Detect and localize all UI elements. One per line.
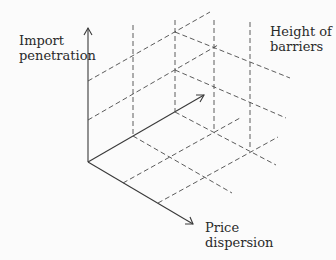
horizontal-axis: [88, 162, 193, 224]
axes: [84, 28, 204, 224]
vertical-axis-label-line2: penetration: [19, 48, 96, 63]
dashed-floor-grid: [123, 112, 278, 203]
floor-price-line-1: [133, 136, 232, 193]
horizontal-axis-label-line2: dispersion: [205, 235, 273, 250]
floor-depth-line-2: [158, 137, 278, 203]
three-axis-diagram: Import penetration Height of barriers Pr…: [0, 0, 336, 260]
depth-axis-label-line1: Height of: [270, 24, 332, 39]
depth-axis: [88, 95, 204, 162]
floor-depth-line-1: [123, 118, 240, 183]
depth-axis-label: Height of barriers: [270, 24, 332, 54]
vertical-axis-label: Import penetration: [19, 33, 96, 63]
depth-axis-label-line2: barriers: [270, 39, 332, 54]
upper-price-line-2: [175, 70, 286, 118]
wall-line-upper: [88, 12, 210, 81]
vertical-axis-label-line1: Import: [19, 33, 96, 48]
floor-price-line-2: [175, 112, 276, 165]
horizontal-axis-label-line1: Price: [205, 220, 273, 235]
wall-line-lower: [88, 45, 218, 120]
horizontal-axis-label: Price dispersion: [205, 220, 273, 250]
dashed-wall-lines: [88, 12, 218, 120]
